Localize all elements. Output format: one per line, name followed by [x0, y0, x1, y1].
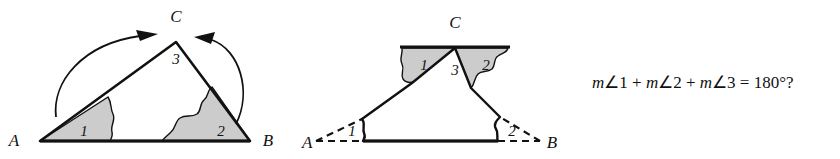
- shaded-angle-2-region: [162, 87, 250, 141]
- vertex-label-B-left: B: [263, 131, 274, 150]
- vertex-label-B-right: B: [547, 133, 558, 152]
- equation-result: 180°?: [754, 73, 794, 92]
- vertex-label-A-right: A: [301, 133, 313, 152]
- angle-sum-equation: m∠1 + m∠2 + m∠3 = 180°?: [592, 72, 793, 93]
- equation-term-1: 1: [619, 73, 628, 92]
- rotation-arrow-left-head: [136, 30, 158, 41]
- vertex-label-C-right: C: [449, 13, 461, 32]
- equation-term-2: 2: [673, 73, 682, 92]
- original-angle-label-1-right: 1: [348, 123, 356, 139]
- equation-term-3: 3: [727, 73, 736, 92]
- vertex-label-C-left: C: [170, 7, 182, 26]
- angle-symbol-1: ∠: [604, 73, 619, 92]
- equation-equals: =: [740, 73, 750, 92]
- equation-m2: m: [646, 73, 658, 92]
- rotation-arrow-right-head: [194, 32, 215, 44]
- moved-angle-label-2: 2: [482, 57, 490, 73]
- moved-angle-label-1: 1: [420, 57, 428, 73]
- equation-m3: m: [700, 73, 712, 92]
- figure-right: A B C 1 2 3 1 2: [300, 0, 560, 159]
- angle-label-2-left: 2: [217, 123, 225, 139]
- equation-plus-2: +: [686, 73, 696, 92]
- angle-label-3-left: 3: [171, 51, 180, 67]
- dashed-corner-B: [500, 117, 540, 141]
- figure-canvas: A B C 1 2 3 A B C 1 2 3 1 2: [0, 0, 840, 159]
- angle-label-3-right: 3: [450, 62, 459, 78]
- angle-symbol-3: ∠: [712, 73, 727, 92]
- angle-symbol-2: ∠: [658, 73, 673, 92]
- figure-left: A B C 1 2 3: [0, 0, 290, 159]
- vertex-label-A-left: A: [8, 131, 20, 150]
- angle-label-1-left: 1: [80, 123, 88, 139]
- equation-m1: m: [592, 73, 604, 92]
- original-angle-label-2-right: 2: [508, 123, 516, 139]
- equation-plus-1: +: [632, 73, 642, 92]
